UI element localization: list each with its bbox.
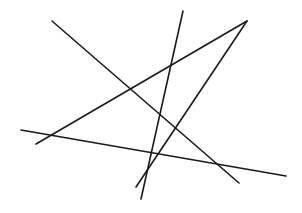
line-1	[52, 21, 239, 183]
line-5	[21, 130, 286, 176]
line-4	[136, 21, 247, 187]
line-3	[36, 21, 247, 144]
line-diagram	[0, 0, 302, 213]
line-group	[21, 11, 286, 199]
